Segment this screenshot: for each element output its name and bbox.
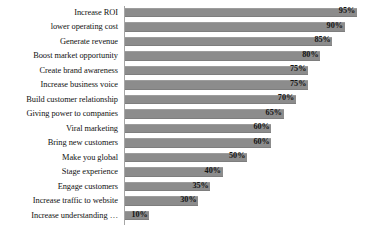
category-label: Create brand awareness [0, 65, 118, 76]
bar[interactable] [125, 80, 308, 90]
bar-track [125, 22, 345, 32]
category-label: Engage customers [0, 181, 118, 192]
bar-row: Create brand awareness75% [0, 64, 369, 79]
bar-track [125, 109, 284, 119]
bar-value-label: 80% [302, 50, 318, 60]
bar-track [125, 66, 308, 76]
bar-value-label: 60% [253, 137, 269, 147]
bar-row: Giving power to companies65% [0, 108, 369, 123]
bar[interactable] [125, 8, 357, 18]
bar-track [125, 80, 308, 90]
bar-row: lower operating cost90% [0, 21, 369, 36]
bar-value-label: 85% [314, 35, 330, 45]
plot-area: Increase ROI95%lower operating cost90%Ge… [0, 6, 369, 226]
bar-value-label: 75% [290, 79, 306, 89]
bar-row: Increase business voice75% [0, 79, 369, 94]
bar-row: Increase traffic to website30% [0, 195, 369, 210]
category-label: Boost market opportunity [0, 50, 118, 61]
bar-value-label: 75% [290, 64, 306, 74]
horizontal-bar-chart: Increase ROI95%lower operating cost90%Ge… [0, 0, 369, 240]
bar-value-label: 35% [192, 181, 208, 191]
bar[interactable] [125, 22, 345, 32]
category-label: Bring new customers [0, 137, 118, 148]
category-label: Giving power to companies [0, 108, 118, 119]
bar-row: Stage experience40% [0, 166, 369, 181]
bar[interactable] [125, 37, 332, 47]
bar-row: Build customer relationship70% [0, 93, 369, 108]
bar-value-label: 90% [327, 21, 343, 31]
bar-track [125, 8, 357, 18]
bar-track [125, 138, 271, 148]
bar[interactable] [125, 124, 271, 134]
bar-row: Engage customers35% [0, 180, 369, 195]
category-label: Increase ROI [0, 7, 118, 18]
bar-row: Boost market opportunity80% [0, 50, 369, 65]
bar-track [125, 37, 332, 47]
bar-row: Viral marketing60% [0, 122, 369, 137]
category-label: Make you global [0, 152, 118, 163]
bar-value-label: 60% [253, 122, 269, 132]
bar-row: Make you global50% [0, 151, 369, 166]
bar-value-label: 40% [205, 166, 221, 176]
bar[interactable] [125, 95, 296, 105]
category-label: Viral marketing [0, 123, 118, 134]
category-label: Increase business voice [0, 79, 118, 90]
bar-value-label: 50% [229, 151, 245, 161]
bar-row: Bring new customers60% [0, 137, 369, 152]
bar-value-label: 95% [339, 6, 355, 16]
bar-track [125, 95, 296, 105]
bar-row: Increase understanding …10% [0, 209, 369, 224]
bar[interactable] [125, 66, 308, 76]
bar[interactable] [125, 109, 284, 119]
bar[interactable] [125, 51, 320, 61]
bar-value-label: 70% [278, 93, 294, 103]
bar-track [125, 124, 271, 134]
category-label: Build customer relationship [0, 94, 118, 105]
category-label: Stage experience [0, 166, 118, 177]
bar-row: Increase ROI95% [0, 6, 369, 21]
bar-track [125, 51, 320, 61]
bar-value-label: 10% [131, 210, 147, 220]
category-label: Increase understanding … [0, 210, 118, 221]
category-label: lower operating cost [0, 21, 118, 32]
bar-value-label: 65% [266, 108, 282, 118]
bar-row: Generate revenue85% [0, 35, 369, 50]
category-label: Increase traffic to website [0, 195, 118, 206]
bar[interactable] [125, 138, 271, 148]
bar-value-label: 30% [180, 195, 196, 205]
category-label: Generate revenue [0, 36, 118, 47]
